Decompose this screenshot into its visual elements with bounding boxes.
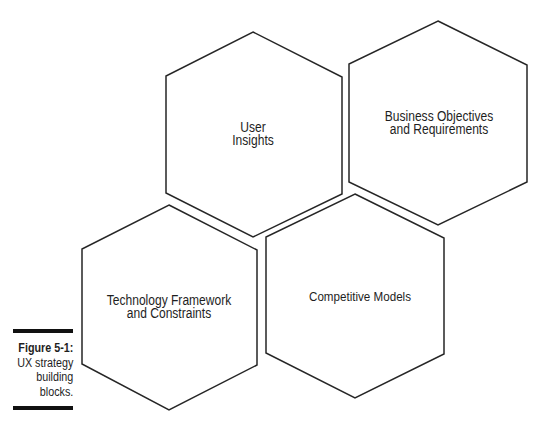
- caption-line: blocks.: [17, 385, 73, 400]
- label-user-insights: User Insights: [210, 121, 296, 147]
- label-competitive-models: Competitive Models: [300, 290, 420, 303]
- label-line: and Constraints: [96, 307, 242, 320]
- label-technology-framework: Technology Framework and Constraints: [96, 294, 242, 320]
- hexagon-diagram: [0, 0, 555, 438]
- label-line: and Requirements: [370, 123, 508, 136]
- label-line: Competitive Models: [300, 290, 420, 303]
- caption-line: building: [17, 370, 73, 385]
- figure-number: Figure 5-1:: [17, 341, 73, 356]
- caption-bottom-rule: [13, 406, 73, 410]
- caption-top-rule: [13, 329, 73, 333]
- label-line: Insights: [210, 134, 296, 147]
- label-business-objectives: Business Objectives and Requirements: [370, 110, 508, 136]
- figure-caption: Figure 5-1: UX strategy building blocks.: [17, 341, 73, 399]
- caption-line: UX strategy: [17, 356, 73, 371]
